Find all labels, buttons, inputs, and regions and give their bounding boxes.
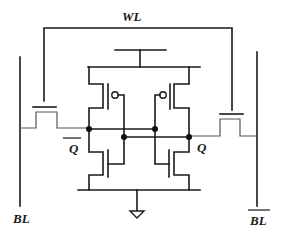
right-pull-down-nmos	[155, 129, 189, 190]
node-q-label: Q	[197, 140, 207, 155]
vdd-supply	[88, 50, 200, 67]
bit-line-bar-label: BL	[249, 213, 267, 228]
word-line	[44, 28, 232, 110]
right-pull-up-pmos	[155, 67, 189, 137]
ground-supply	[78, 190, 200, 218]
left-pull-down-nmos	[89, 129, 124, 190]
right-access-transistor	[189, 114, 257, 136]
junction-dot	[121, 134, 127, 140]
word-line-label: WL	[122, 9, 142, 24]
junction-dot	[152, 126, 158, 132]
node-q-bar-label: Q	[69, 141, 79, 156]
left-access-transistor	[20, 107, 89, 128]
ground-icon	[130, 211, 144, 218]
junction-dot	[186, 134, 192, 140]
left-pull-up-pmos	[89, 67, 124, 137]
schematic-svg: WL BL BL	[0, 0, 284, 241]
junction-dot	[86, 126, 92, 132]
sram-cell-diagram: WL BL BL	[0, 0, 284, 241]
bit-line-label: BL	[12, 211, 30, 226]
